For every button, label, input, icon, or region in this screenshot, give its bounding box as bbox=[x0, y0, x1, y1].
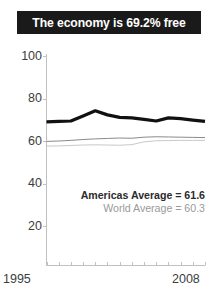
series-line-world-average bbox=[47, 140, 206, 146]
axis-lines bbox=[47, 54, 206, 266]
data-series-lines bbox=[47, 111, 206, 146]
x-axis-ticks bbox=[48, 262, 206, 266]
plot-canvas bbox=[0, 0, 218, 303]
y-axis-ticks bbox=[43, 57, 47, 227]
series-line-country bbox=[47, 111, 206, 122]
chart-figure: The economy is 69.2% free 100 80 60 40 2… bbox=[0, 0, 218, 303]
